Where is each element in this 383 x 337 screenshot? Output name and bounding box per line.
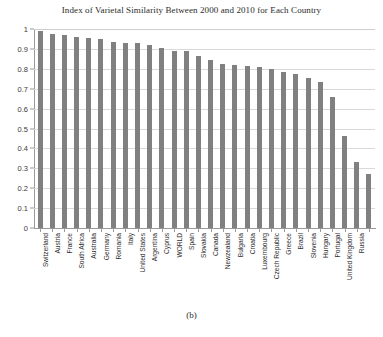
x-axis-tickmark [320,229,321,232]
bar [281,72,286,228]
y-axis-tick-label: 0 [24,224,28,233]
x-axis-tickmark [259,229,260,232]
x-axis-tickmark [138,229,139,232]
x-axis-category-label: Hungary [323,233,330,258]
x-axis-category-label: Switzerland [43,233,50,267]
x-axis-category-label: WORLD [177,233,184,258]
bar [74,37,79,228]
bar [354,162,359,228]
bar [50,34,55,228]
x-axis-category-label: South Africa [79,233,86,269]
x-axis-tickmark [369,229,370,232]
y-axis-tick-label: 0.7 [18,84,28,93]
bar [159,48,164,228]
bar [135,43,140,228]
x-axis-category-label: Australia [91,233,98,259]
x-axis-category-label: Austria [55,233,62,254]
x-axis-tickmark [308,229,309,232]
x-axis-tickmark [247,229,248,232]
x-axis-category-label: United States [140,233,147,273]
x-axis-category-label: United Kingdom [347,233,354,280]
x-axis-category-label: Romania [116,233,123,259]
x-axis-category-label: Spain [189,233,196,250]
bar [123,43,128,228]
x-axis-tickmark [113,229,114,232]
y-axis-tick-label: 0.3 [18,164,28,173]
y-axis-tick-label: 0.9 [18,44,28,53]
figure-caption: (b) [0,310,383,320]
bar [111,42,116,228]
x-axis-tickmark [150,229,151,232]
y-axis-tick-label: 0.2 [18,184,28,193]
bar [147,45,152,228]
x-axis-category-label: Canada [213,233,220,256]
x-axis-category-label: Greece [286,233,293,255]
bar [366,174,371,228]
bar [196,56,201,228]
x-axis-category-label: Croatia [250,233,257,254]
y-axis-tick-label: 0.4 [18,144,28,153]
bar [293,74,298,228]
x-axis-tickmark [198,229,199,232]
bar [232,65,237,228]
bar [342,136,347,228]
x-axis-tickmark [77,229,78,232]
bar [172,51,177,229]
bar [318,82,323,228]
bar [330,97,335,228]
figure-panel: Index of Varietal Similarity Between 200… [0,0,383,337]
bar [98,39,103,228]
x-axis-tickmark [186,229,187,232]
x-axis-tickmark [345,229,346,232]
bar [220,64,225,228]
x-axis-category-label: Brazil [298,233,305,250]
x-axis-category-label: Germany [104,233,111,260]
x-axis-category-label: Russia [359,233,366,253]
x-axis-category-label: Portugal [335,233,342,258]
bar [184,51,189,228]
y-axis-tick-label: 0.5 [18,124,28,133]
x-axis-category-labels: SwitzerlandAustriaFranceSouth AfricaAust… [34,233,375,295]
y-axis: 00.10.20.30.40.50.60.70.80.91 [0,29,34,229]
y-axis-tick-label: 0.1 [18,204,28,213]
x-axis-tickmark [235,229,236,232]
x-axis-tickmark [357,229,358,232]
x-axis-tickmark [89,229,90,232]
x-axis-tickmark [125,229,126,232]
x-axis-tickmark [40,229,41,232]
x-axis-tickmark [271,229,272,232]
y-axis-tick-label: 0.8 [18,64,28,73]
x-axis-tickmark [101,229,102,232]
y-axis-tick-label: 0.6 [18,104,28,113]
bar [38,31,43,228]
chart-title: Index of Varietal Similarity Between 200… [0,5,383,15]
x-axis-tickmark [64,229,65,232]
x-axis-category-label: Luxembourg [262,233,269,270]
bar-series [34,29,375,228]
x-axis-category-label: Czech Republic [274,233,281,279]
x-axis-category-label: Italy [128,233,135,245]
bar [306,78,311,228]
bar [257,67,262,228]
x-axis-tickmark [162,229,163,232]
x-axis-category-label: Newzealand [225,233,232,269]
x-axis-category-label: Bulgaria [238,233,245,257]
bar [245,66,250,228]
x-axis-category-label: Slovenia [311,233,318,258]
x-axis-category-label: Argentina [152,233,159,261]
x-axis-tickmark [52,229,53,232]
bar [86,38,91,228]
x-axis-category-label: Cyprus [164,233,171,254]
x-axis-tickmark [174,229,175,232]
x-axis-category-label: Slovakia [201,233,208,258]
x-axis-category-label: France [67,233,74,254]
x-axis-tickmark [284,229,285,232]
x-axis-tickmark [211,229,212,232]
y-axis-tick-label: 1 [24,25,28,34]
x-axis-tickmark [332,229,333,232]
bar [269,69,274,228]
x-axis-tickmark [223,229,224,232]
bar [62,35,67,228]
bar [208,60,213,228]
plot-area [34,29,375,228]
